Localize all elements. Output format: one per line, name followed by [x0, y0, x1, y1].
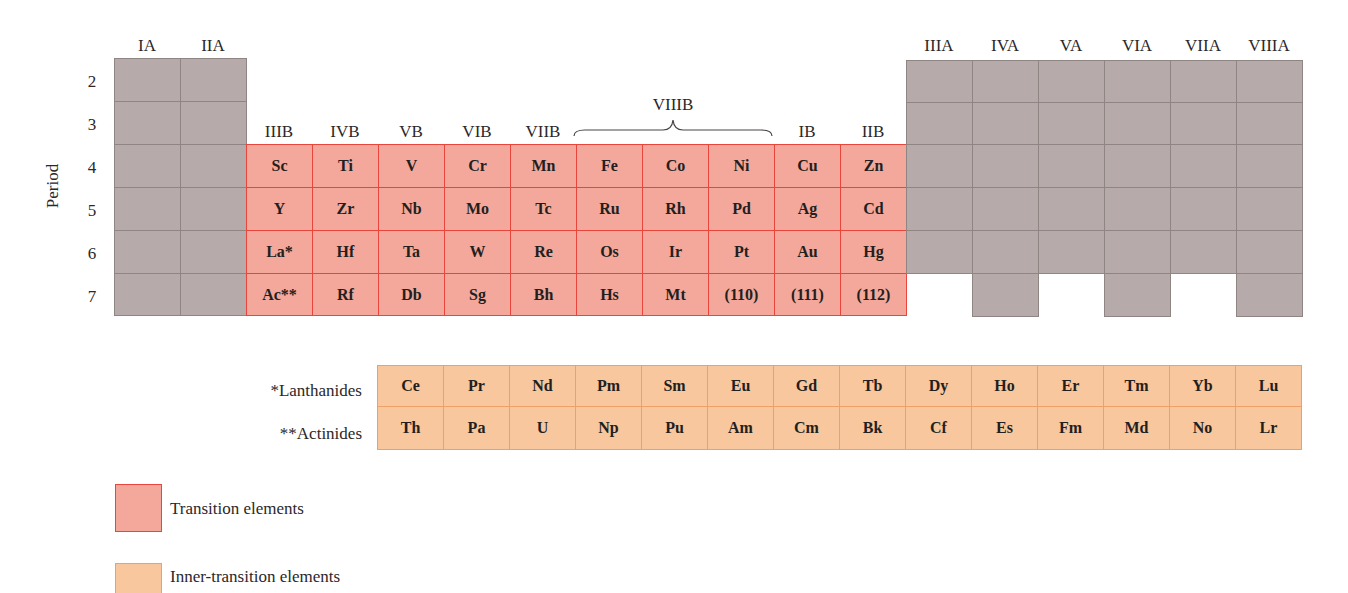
- element-cell: La*: [246, 230, 313, 274]
- element-cell: Md: [1103, 406, 1170, 450]
- cell-main-group: [180, 187, 247, 231]
- element-cell: Lu: [1235, 365, 1302, 407]
- legend-label-inner-transition: Inner-transition elements: [170, 567, 340, 587]
- element-cell: Cd: [840, 187, 907, 231]
- actinides-label: **Actinides: [182, 424, 362, 444]
- group-label-viiia: VIIIA: [1236, 36, 1302, 56]
- period-number-2: 2: [82, 72, 102, 92]
- element-cell: Zr: [312, 187, 379, 231]
- element-cell: Tm: [1103, 365, 1170, 407]
- element-cell: (110): [708, 273, 775, 316]
- cell-main-group: [180, 273, 247, 316]
- element-cell: Mt: [642, 273, 709, 316]
- cell-main-group: [180, 101, 247, 145]
- element-cell: Ac**: [246, 273, 313, 316]
- group-label-viia: VIIA: [1170, 36, 1236, 56]
- element-cell: Gd: [773, 365, 840, 407]
- group-label-iiib: IIIB: [246, 122, 312, 142]
- group-label-vb: VB: [378, 122, 444, 142]
- column-divider: [1170, 60, 1171, 274]
- element-cell: No: [1169, 406, 1236, 450]
- cell-main-group: [180, 58, 247, 102]
- element-cell: Nb: [378, 187, 445, 231]
- group-label-iva: IVA: [972, 36, 1038, 56]
- element-cell: Re: [510, 230, 577, 274]
- element-cell: Co: [642, 144, 709, 188]
- element-cell: Yb: [1169, 365, 1236, 407]
- element-cell: U: [509, 406, 576, 450]
- period-number-6: 6: [82, 244, 102, 264]
- element-cell: V: [378, 144, 445, 188]
- group-label-ia: IA: [114, 36, 180, 56]
- cell-main-group: [972, 273, 1039, 317]
- group-label-via: VIA: [1104, 36, 1170, 56]
- element-cell: Pa: [443, 406, 510, 450]
- element-cell: Db: [378, 273, 445, 316]
- element-cell: Cm: [773, 406, 840, 450]
- element-cell: Mo: [444, 187, 511, 231]
- element-cell: Fm: [1037, 406, 1104, 450]
- group-label-viib: VIIB: [510, 122, 576, 142]
- element-cell: Nd: [509, 365, 576, 407]
- element-cell: (111): [774, 273, 841, 316]
- element-cell: Cf: [905, 406, 972, 450]
- column-divider: [1236, 60, 1237, 274]
- element-cell: Rf: [312, 273, 379, 316]
- cell-main-group: [114, 230, 181, 274]
- element-cell: Ni: [708, 144, 775, 188]
- element-cell: Eu: [707, 365, 774, 407]
- element-cell: (112): [840, 273, 907, 316]
- element-cell: Tc: [510, 187, 577, 231]
- element-cell: Os: [576, 230, 643, 274]
- lanthanides-label: *Lanthanides: [182, 381, 362, 401]
- element-cell: Ta: [378, 230, 445, 274]
- legend-swatch-inner-transition: [115, 563, 162, 593]
- element-cell: Lr: [1235, 406, 1302, 450]
- legend-swatch-transition: [115, 484, 162, 532]
- cell-main-group: [180, 230, 247, 274]
- element-cell: Zn: [840, 144, 907, 188]
- element-cell: Rh: [642, 187, 709, 231]
- element-cell: Hf: [312, 230, 379, 274]
- column-divider: [1038, 60, 1039, 274]
- element-cell: Ti: [312, 144, 379, 188]
- group-label-ib: IB: [774, 122, 840, 142]
- group-label-vib: VIB: [444, 122, 510, 142]
- viiib-brace-icon: [573, 118, 773, 138]
- period-number-7: 7: [82, 287, 102, 307]
- element-cell: Bh: [510, 273, 577, 316]
- cell-main-group: [114, 101, 181, 145]
- element-cell: Tb: [839, 365, 906, 407]
- group-label-viiib: VIIIB: [640, 95, 706, 115]
- column-divider: [1104, 60, 1105, 274]
- element-cell: Ru: [576, 187, 643, 231]
- cell-main-group: [1104, 273, 1171, 317]
- element-cell: Dy: [905, 365, 972, 407]
- element-cell: Sc: [246, 144, 313, 188]
- element-cell: Y: [246, 187, 313, 231]
- element-cell: Ir: [642, 230, 709, 274]
- element-cell: Es: [971, 406, 1038, 450]
- cell-main-group: [114, 187, 181, 231]
- cell-main-group: [114, 144, 181, 188]
- element-cell: Sm: [641, 365, 708, 407]
- element-cell: Np: [575, 406, 642, 450]
- group-label-iib: IIB: [840, 122, 906, 142]
- element-cell: Fe: [576, 144, 643, 188]
- element-cell: Cr: [444, 144, 511, 188]
- group-label-ivb: IVB: [312, 122, 378, 142]
- period-number-5: 5: [82, 201, 102, 221]
- element-cell: Bk: [839, 406, 906, 450]
- element-cell: W: [444, 230, 511, 274]
- column-divider: [972, 60, 973, 274]
- element-cell: Mn: [510, 144, 577, 188]
- group-label-va: VA: [1038, 36, 1104, 56]
- element-cell: Pr: [443, 365, 510, 407]
- element-cell: Ag: [774, 187, 841, 231]
- cell-main-group: [114, 58, 181, 102]
- element-cell: Sg: [444, 273, 511, 316]
- period-axis-title: Period: [43, 164, 63, 208]
- element-cell: Hs: [576, 273, 643, 316]
- element-cell: Pt: [708, 230, 775, 274]
- element-cell: Pm: [575, 365, 642, 407]
